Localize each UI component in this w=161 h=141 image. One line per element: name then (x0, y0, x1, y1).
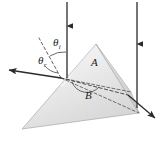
prism-diagram-canvas: θi θr A B (0, 0, 161, 141)
optics-prism-figure: θi θr A B (0, 0, 161, 141)
label-theta-r: θr (38, 54, 47, 69)
label-angle-b: B (85, 89, 92, 101)
label-theta-i: θi (53, 36, 61, 51)
angle-arc-theta-i (50, 52, 66, 56)
angle-arc-theta-r (45, 66, 58, 73)
reflected-ray (9, 70, 61, 78)
label-angle-a: A (90, 56, 98, 68)
